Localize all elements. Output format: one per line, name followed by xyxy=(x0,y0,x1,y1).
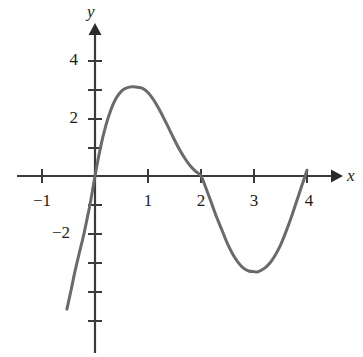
x-tick-label-4: 4 xyxy=(296,191,322,211)
y-tick-label-4: 4 xyxy=(52,50,78,70)
y-tick-label-2: 2 xyxy=(52,108,78,128)
y-axis-label: y xyxy=(87,2,95,22)
x-tick-label-1: 1 xyxy=(135,191,161,211)
graph-figure: y x −1 1 2 3 4 4 2 −2 xyxy=(0,0,363,357)
x-tick-label-minus1: −1 xyxy=(29,191,55,211)
data-curve xyxy=(67,87,307,309)
y-tick-label-minus2: −2 xyxy=(44,223,70,243)
x-tick-label-3: 3 xyxy=(241,191,267,211)
axes-group xyxy=(17,23,343,353)
x-axis-label: x xyxy=(347,166,355,186)
x-tick-label-2: 2 xyxy=(188,191,214,211)
x-axis-arrowhead xyxy=(331,170,343,183)
y-axis-arrowhead xyxy=(89,23,102,35)
